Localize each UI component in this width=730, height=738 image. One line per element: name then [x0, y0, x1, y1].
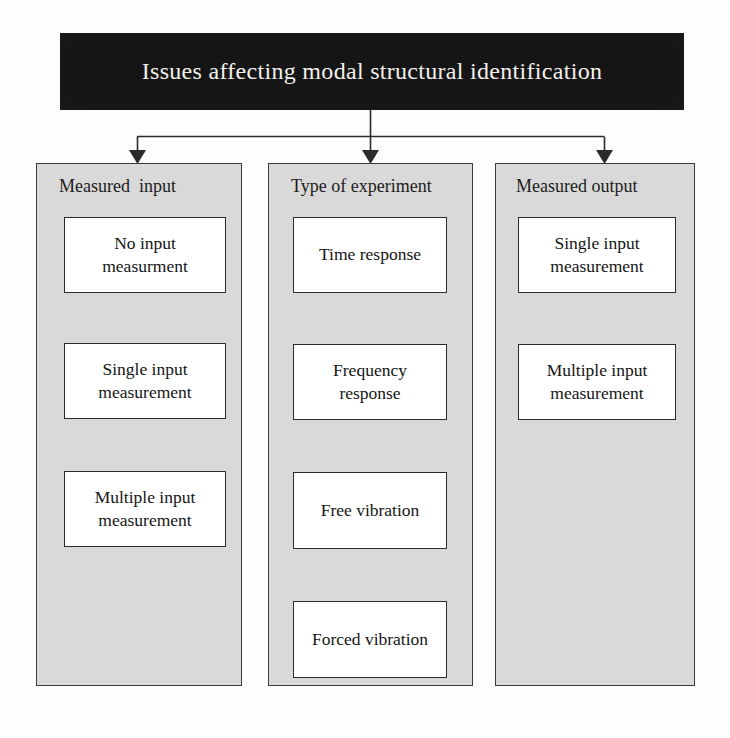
node-time-response[interactable]: Time response	[293, 217, 447, 293]
node-label: Multiple input measurement	[547, 359, 648, 405]
node-label: Time response	[319, 243, 421, 266]
node-label: No input measurment	[102, 232, 188, 278]
node-frequency-response[interactable]: Frequency response	[293, 344, 447, 420]
panel-header-measured-output: Measured output	[516, 176, 637, 198]
panel-measured-input: Measured input No input measurment Singl…	[36, 163, 242, 686]
arrowhead-middle-icon	[362, 150, 379, 164]
node-label: Multiple input measurement	[95, 486, 196, 532]
node-label: Free vibration	[321, 499, 420, 522]
node-label: Frequency response	[333, 359, 407, 405]
arrowhead-right-icon	[596, 150, 613, 164]
panel-header-type-of-experiment: Type of experiment	[291, 176, 432, 198]
diagram-title-banner: Issues affecting modal structural identi…	[60, 33, 684, 110]
node-single-input-measurement[interactable]: Single input measurement	[64, 343, 226, 419]
arrowhead-left-icon	[129, 150, 146, 164]
panel-header-measured-input: Measured input	[59, 176, 176, 198]
node-label: Forced vibration	[312, 628, 428, 651]
node-label: Single input measurement	[550, 232, 643, 278]
node-output-multiple-input-measurement[interactable]: Multiple input measurement	[518, 344, 676, 420]
diagram-canvas: Issues affecting modal structural identi…	[0, 0, 730, 738]
node-multiple-input-measurement[interactable]: Multiple input measurement	[64, 471, 226, 547]
node-no-input-measurement[interactable]: No input measurment	[64, 217, 226, 293]
node-forced-vibration[interactable]: Forced vibration	[293, 601, 447, 678]
panel-measured-output: Measured output Single input measurement…	[495, 163, 695, 686]
node-label: Single input measurement	[98, 358, 191, 404]
panel-type-of-experiment: Type of experiment Time response Frequen…	[268, 163, 473, 686]
node-free-vibration[interactable]: Free vibration	[293, 472, 447, 549]
diagram-title-text: Issues affecting modal structural identi…	[142, 58, 603, 84]
node-output-single-input-measurement[interactable]: Single input measurement	[518, 217, 676, 293]
